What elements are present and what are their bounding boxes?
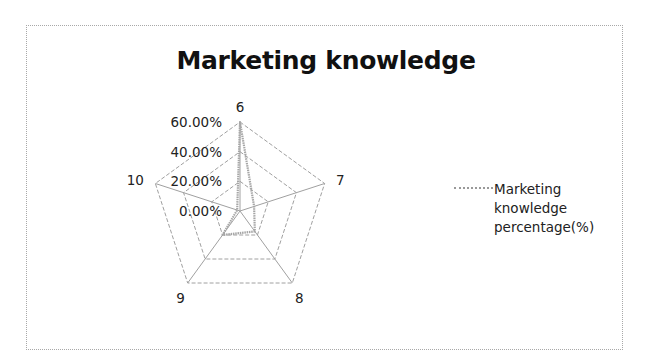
axis-spoke — [188, 211, 240, 283]
category-label: 6 — [236, 99, 245, 115]
legend-series-line-icon — [454, 187, 493, 189]
category-label: 10 — [127, 172, 144, 188]
legend-label-line: knowledge — [494, 199, 634, 218]
radial-tick-label: 0.00% — [179, 203, 222, 219]
axis-spoke — [240, 211, 292, 283]
legend-label-line: Marketing — [494, 180, 634, 199]
legend-label: Marketing knowledge percentage(%) — [494, 180, 634, 237]
radial-tick-label: 20.00% — [171, 173, 223, 189]
category-label: 8 — [295, 290, 304, 306]
radial-tick-label: 40.00% — [171, 144, 223, 160]
radial-tick-label: 60.00% — [171, 114, 223, 130]
data-series-line — [223, 122, 255, 235]
category-label: 7 — [336, 172, 345, 188]
category-label: 9 — [176, 290, 185, 306]
radar-plot: 0.00%20.00%40.00%60.00%678910 — [0, 0, 652, 356]
legend-label-line: percentage(%) — [494, 218, 634, 237]
